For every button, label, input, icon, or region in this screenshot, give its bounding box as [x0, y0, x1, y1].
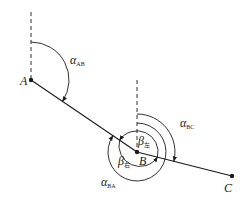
label-alpha-bc: αBC: [180, 116, 194, 130]
point-a: [29, 78, 33, 82]
label-alpha-ab: αAB: [70, 53, 85, 67]
line-bc: [137, 152, 232, 176]
label-beta-left: β左: [137, 134, 150, 148]
label-b: B: [139, 154, 147, 168]
label-a: A: [19, 74, 28, 88]
line-ab: [31, 80, 137, 152]
label-alpha-ba: αBA: [101, 175, 116, 189]
point-c: [230, 174, 234, 178]
azimuth-angle-diagram: A B C αAB αBC αBA β左 β右: [0, 0, 252, 204]
label-c: C: [224, 181, 233, 195]
label-beta-right: β右: [117, 154, 130, 169]
